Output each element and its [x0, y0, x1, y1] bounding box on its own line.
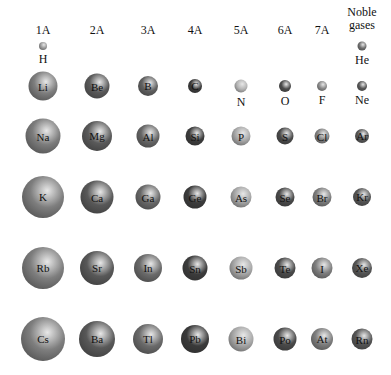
element-symbol: Pb [189, 333, 201, 345]
element-symbol: In [143, 262, 152, 274]
element-symbol: Rb [37, 262, 50, 274]
element-symbol: Si [190, 130, 199, 142]
element-symbol: As [235, 191, 247, 203]
atom-sphere-s: S [277, 128, 294, 145]
atom-sphere-k: K [22, 176, 64, 218]
element-symbol: Xe [356, 262, 369, 274]
element-symbol: Mg [89, 130, 104, 142]
atom-sphere-cs: Cs [21, 317, 65, 361]
element-symbol: O [265, 94, 305, 109]
atom-sphere-rn: Rn [352, 329, 373, 350]
atom-sphere-sr: Sr [80, 251, 114, 285]
element-symbol: Te [280, 262, 291, 274]
atom-sphere-c: C [188, 79, 202, 93]
atom-sphere-as: As [231, 187, 252, 208]
element-symbol: Br [317, 191, 328, 203]
element-symbol: Na [37, 130, 50, 142]
atom-sphere-sn: Sn [183, 256, 208, 281]
atom-sphere-bi: Bi [229, 327, 254, 352]
element-symbol: Sb [235, 262, 247, 274]
atom-sphere-pb: Pb [181, 325, 209, 353]
element-symbol: Se [280, 191, 291, 203]
atom-sphere-kr: Kr [353, 188, 371, 206]
group-header: 5A [216, 24, 266, 37]
element-symbol: P [238, 130, 244, 142]
element-symbol: Al [143, 130, 154, 142]
element-symbol: Cl [317, 130, 327, 142]
atom-sphere-at: At [311, 328, 333, 350]
element-symbol: Ge [189, 191, 202, 203]
element-symbol: Ga [142, 191, 155, 203]
element-symbol: Bi [236, 333, 246, 345]
group-header: 4A [170, 24, 220, 37]
element-symbol: At [317, 333, 328, 345]
element-symbol: C [191, 80, 198, 92]
atom-sphere-po: Po [274, 328, 297, 351]
element-symbol: I [320, 262, 324, 274]
atom-sphere-h [39, 42, 47, 50]
element-symbol: Ar [356, 130, 368, 142]
element-symbol: S [282, 130, 288, 142]
element-symbol: Ne [342, 93, 382, 108]
element-symbol: Sr [92, 262, 102, 274]
group-header: 1A [18, 24, 68, 37]
element-symbol: Rn [356, 333, 369, 345]
atom-sphere-o [279, 80, 291, 92]
atom-sphere-ba: Ba [79, 321, 115, 357]
atom-sphere-na: Na [26, 119, 61, 154]
atom-sphere-in: In [134, 254, 162, 282]
atom-sphere-i: I [312, 258, 333, 279]
element-symbol: Li [38, 80, 48, 92]
element-symbol: Ca [91, 191, 103, 203]
group-header: Noblegases [337, 6, 387, 32]
atom-sphere-mg: Mg [82, 121, 112, 151]
element-symbol: Tl [143, 333, 153, 345]
group-header: 3A [123, 24, 173, 37]
element-symbol: Po [279, 333, 291, 345]
element-symbol: K [39, 191, 47, 203]
element-symbol: Kr [356, 191, 368, 203]
element-symbol: B [144, 80, 151, 92]
element-symbol: Sn [189, 262, 201, 274]
element-symbol: Cs [37, 333, 49, 345]
atom-sphere-ga: Ga [136, 185, 161, 210]
atom-sphere-p: P [232, 127, 251, 146]
group-header: 2A [72, 24, 122, 37]
atom-sphere-rb: Rb [22, 247, 64, 289]
atom-sphere-ca: Ca [81, 181, 114, 214]
atom-sphere-cl: Cl [315, 129, 330, 144]
atom-sphere-si: Si [186, 127, 205, 146]
atom-sphere-te: Te [275, 258, 296, 279]
atom-sphere-b: B [138, 76, 158, 96]
atom-sphere-tl: Tl [133, 324, 163, 354]
atom-sphere-xe: Xe [352, 258, 372, 278]
atom-sphere-sb: Sb [230, 257, 253, 280]
element-symbol: F [302, 93, 342, 108]
atom-sphere-ge: Ge [184, 186, 207, 209]
atom-sphere-al: Al [137, 125, 160, 148]
element-symbol: H [23, 52, 63, 67]
atom-sphere-ar: Ar [355, 129, 369, 143]
atom-sphere-be: Be [85, 74, 110, 99]
element-symbol: Ba [91, 333, 103, 345]
element-symbol: N [221, 95, 261, 110]
atom-sphere-li: Li [29, 72, 58, 101]
atom-sphere-se: Se [276, 188, 295, 207]
atom-sphere-he [358, 42, 367, 51]
atom-sphere-ne [357, 81, 367, 91]
atom-sphere-br: Br [313, 188, 332, 207]
element-symbol: Be [91, 80, 103, 92]
element-symbol: He [342, 53, 382, 68]
atom-sphere-n [235, 80, 248, 93]
atom-sphere-f [317, 81, 327, 91]
